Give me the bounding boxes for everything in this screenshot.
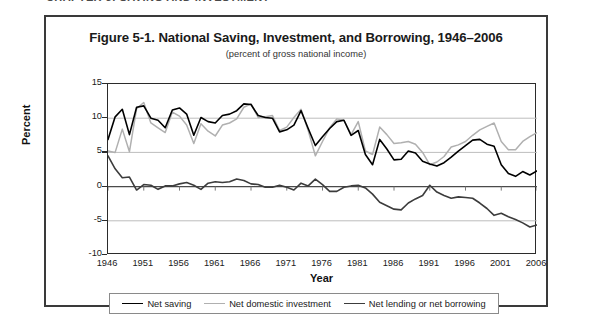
page-running-header: CHAPTER 5: SAVING AND INVESTMENT xyxy=(0,0,595,11)
legend-swatch-icon xyxy=(122,303,143,304)
legend-entry: Net saving xyxy=(122,299,191,309)
x-tick-label: 1976 xyxy=(311,258,332,268)
plot-area xyxy=(107,83,536,254)
x-tick-label: 1951 xyxy=(132,258,153,268)
chart-svg xyxy=(108,84,537,255)
x-tick-label: 1981 xyxy=(347,258,368,268)
page-running-header-text: CHAPTER 5: SAVING AND INVESTMENT xyxy=(46,0,270,3)
figure-subtitle: (percent of gross national income) xyxy=(46,49,546,59)
y-axis-ticks: 151050-5-10 xyxy=(58,83,102,254)
legend-swatch-icon xyxy=(204,303,225,304)
x-tick-label: 1961 xyxy=(204,258,225,268)
x-tick-label: 1956 xyxy=(168,258,189,268)
legend-label: Net lending or net borrowing xyxy=(369,299,486,309)
x-tick-label: 1986 xyxy=(383,258,404,268)
x-tick-label: 1996 xyxy=(454,258,475,268)
y-tick-label: -5 xyxy=(94,214,102,224)
y-tick-label: 5 xyxy=(97,145,102,155)
legend-entry: Net lending or net borrowing xyxy=(344,299,486,309)
y-tick-label: 0 xyxy=(97,180,102,190)
y-axis-title: Percent xyxy=(20,105,32,145)
legend-label: Net saving xyxy=(147,299,191,309)
chart-legend: Net savingNet domestic investmentNet len… xyxy=(109,293,499,314)
y-tick-label: 10 xyxy=(92,111,102,121)
legend-label: Net domestic investment xyxy=(229,299,331,309)
x-tick-label: 1946 xyxy=(97,258,118,268)
x-tick-label: 2006 xyxy=(526,258,547,268)
y-tick-label: 15 xyxy=(92,77,102,87)
legend-entry: Net domestic investment xyxy=(204,299,331,309)
x-tick-label: 1991 xyxy=(418,258,439,268)
series-line xyxy=(108,156,537,227)
x-axis-ticks: 1946195119561961196619711976198119861991… xyxy=(107,256,536,272)
x-axis-title: Year xyxy=(107,272,536,284)
figure-container: Figure 5-1. National Saving, Investment,… xyxy=(44,15,548,307)
y-tick-label: -10 xyxy=(89,248,102,258)
figure-title: Figure 5-1. National Saving, Investment,… xyxy=(46,30,546,45)
x-tick-label: 2001 xyxy=(490,258,511,268)
x-tick-label: 1966 xyxy=(240,258,261,268)
x-tick-label: 1971 xyxy=(275,258,296,268)
legend-swatch-icon xyxy=(344,303,365,304)
